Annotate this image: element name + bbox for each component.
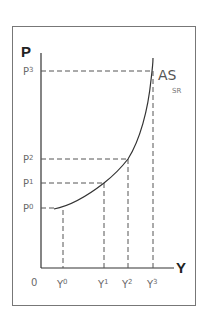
x-tick-label-y3: Y3 — [146, 278, 158, 290]
x-axis-title: Y — [176, 259, 186, 276]
sras-diagram: P Y 0 AS SR P3 P2 P1 P0 Y0 Y1 Y2 Y3 — [0, 0, 208, 318]
y-tick-label-p1: P1 — [23, 178, 34, 189]
y-axis-title: P — [21, 43, 31, 60]
curve-sublabel: SR — [172, 87, 181, 95]
y-tick-label-p2: P2 — [23, 154, 34, 165]
y-tick-label-p0: P0 — [23, 203, 34, 214]
x-tick-label-y0: Y0 — [56, 278, 68, 290]
y-tick-label-p3: P3 — [23, 66, 34, 77]
curve-label: AS — [158, 67, 177, 83]
x-tick-label-y2: Y2 — [121, 278, 133, 290]
x-tick-label-y1: Y1 — [97, 278, 109, 290]
origin-label: 0 — [31, 277, 37, 288]
